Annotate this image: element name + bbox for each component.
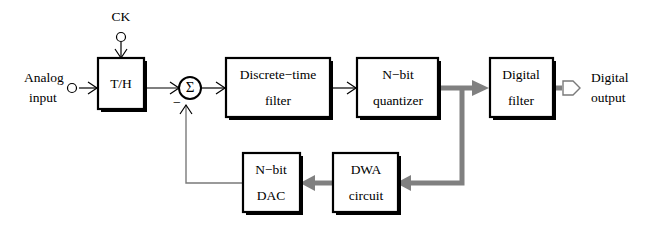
block-th[interactable]: T/H <box>98 58 147 112</box>
wire-summer-to-dtfilter <box>201 82 225 94</box>
block-n-bit-dac[interactable]: N−bit DAC <box>243 153 303 215</box>
analog-input-label-line1: Analog <box>24 70 64 85</box>
bus-dwa-to-dac <box>300 175 332 191</box>
analog-input-terminal[interactable] <box>68 84 77 93</box>
block-discrete-time-filter[interactable]: Discrete−time filter <box>226 58 333 120</box>
block-digital-filter[interactable]: Digital filter <box>490 58 556 120</box>
digital-output-label-line1: Digital <box>591 70 629 85</box>
clock-label: CK <box>112 9 131 24</box>
digital-output-label-line2: output <box>591 90 626 105</box>
block-dwa-circuit-label-line1: DWA <box>351 162 382 177</box>
wire-ck-to-th <box>115 42 127 58</box>
block-n-bit-dac-label-line1: N−bit <box>255 162 287 177</box>
block-digital-filter-label-line2: filter <box>508 93 535 108</box>
block-n-bit-dac-label-line2: DAC <box>257 188 286 203</box>
analog-input-label-line2: input <box>29 90 57 105</box>
block-n-bit-quantizer[interactable]: N−bit quantizer <box>357 58 441 120</box>
digital-output-terminal[interactable] <box>563 81 580 95</box>
block-n-bit-quantizer-label-line1: N−bit <box>382 67 414 82</box>
wire-th-to-summer <box>145 82 179 94</box>
block-discrete-time-filter-label-line2: filter <box>265 93 292 108</box>
summing-node-symbol: Σ <box>186 79 195 95</box>
clock-input-terminal[interactable] <box>117 33 126 42</box>
summing-node-negative-sign: − <box>173 95 181 110</box>
block-dwa-circuit[interactable]: DWA circuit <box>333 153 401 215</box>
wire-analog-input-to-th <box>79 82 97 94</box>
block-th-label-line1: T/H <box>110 76 132 91</box>
block-discrete-time-filter-label-line1: Discrete−time <box>240 67 317 82</box>
summing-node[interactable]: Σ − <box>173 77 201 110</box>
block-dwa-circuit-label-line2: circuit <box>349 188 384 203</box>
diagram-canvas: T/H Σ − Discrete−time filter N−bit quant… <box>0 0 658 228</box>
block-n-bit-quantizer-label-line2: quantizer <box>373 93 424 108</box>
block-diagram: T/H Σ − Discrete−time filter N−bit quant… <box>0 0 658 228</box>
block-digital-filter-label-line1: Digital <box>502 67 540 82</box>
wire-dtfilter-to-quantizer <box>331 82 356 94</box>
